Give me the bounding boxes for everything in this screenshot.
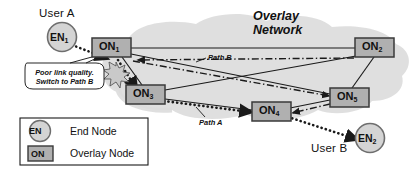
en2-text: EN xyxy=(358,132,373,144)
on1-subscript: 1 xyxy=(116,46,120,53)
overlay-node-on1-label: ON1 xyxy=(99,41,119,53)
legend-end-node-symbol: EN xyxy=(29,126,42,136)
on2-subscript: 2 xyxy=(379,46,383,53)
on3-text: ON xyxy=(133,87,150,99)
overlay-network-title-line1: Overlay xyxy=(253,9,302,23)
end-node-en1-label: EN1 xyxy=(50,31,69,43)
overlay-node-on3-label: ON3 xyxy=(133,88,153,100)
on3-subscript: 3 xyxy=(150,93,154,100)
on4-text: ON xyxy=(259,104,276,116)
callout-line-2: Switch to Path B xyxy=(25,77,104,86)
on5-text: ON xyxy=(337,90,354,102)
overlay-network-title-line2: Network xyxy=(253,23,302,37)
legend-end-node-label: End Node xyxy=(70,125,117,137)
path-a-label: Path A xyxy=(199,118,222,127)
on2-text: ON xyxy=(362,40,379,52)
legend-overlay-node-symbol: ON xyxy=(31,149,45,159)
en1-subscript: 1 xyxy=(65,37,69,44)
diagram-canvas: Overlay Network User A EN1 User B EN2 ON… xyxy=(0,0,414,173)
user-b-label: User B xyxy=(311,142,347,154)
overlay-network-title: Overlay Network xyxy=(253,9,302,37)
end-node-en2-label: EN2 xyxy=(358,132,377,144)
path-a-on4-en2 xyxy=(288,117,356,139)
callout-line-1: Poor link quality. xyxy=(25,68,104,77)
en1-text: EN xyxy=(50,31,65,43)
overlay-node-on4-label: ON4 xyxy=(259,105,279,117)
path-b-label: Path B xyxy=(208,53,232,62)
user-a-label: User A xyxy=(39,7,75,19)
callout-text: Poor link quality. Switch to Path B xyxy=(25,68,104,87)
on5-subscript: 5 xyxy=(354,96,358,103)
overlay-node-on5-label: ON5 xyxy=(337,91,357,103)
legend-overlay-node-label: Overlay Node xyxy=(70,147,134,159)
overlay-node-on2-label: ON2 xyxy=(362,41,382,53)
on1-text: ON xyxy=(99,40,116,52)
on4-subscript: 4 xyxy=(276,110,280,117)
en2-subscript: 2 xyxy=(373,138,377,145)
